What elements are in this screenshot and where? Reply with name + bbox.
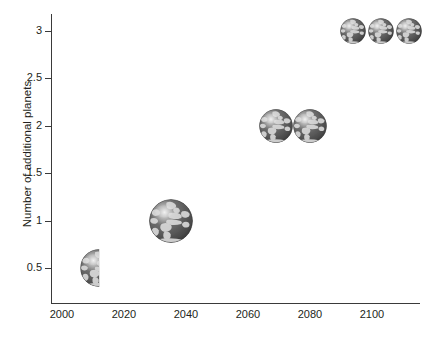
x-tick-label: 2040 [164,309,208,320]
y-tick-label: 0.5 [8,262,42,273]
y-tick-mark [45,126,51,127]
y-tick-label: 2 [8,120,42,131]
y-tick-label: 1 [8,215,42,226]
earth-globe-icon [293,109,327,143]
x-tick-label: 2060 [226,309,270,320]
earth-globe-icon [396,18,422,44]
chart-canvas: Number of additional planets 32.521.510.… [0,0,434,338]
x-tick-label: 2080 [288,309,332,320]
x-tick-label: 2000 [40,309,84,320]
half-earth-globe-icon [80,249,118,287]
y-tick-label: 3 [8,25,42,36]
earth-globe-icon [149,199,193,243]
y-tick-mark [45,221,51,222]
y-tick-label: 2.5 [8,72,42,83]
y-tick-mark [45,31,51,32]
x-tick-label: 2020 [102,309,146,320]
x-axis-line [51,303,420,304]
earth-globe-icon [368,18,394,44]
earth-globe-icon [340,18,366,44]
y-tick-mark [45,268,51,269]
earth-globe-icon [259,109,293,143]
y-axis-line [51,14,52,304]
x-tick-label: 2100 [350,309,394,320]
y-tick-label: 1.5 [8,167,42,178]
y-tick-mark [45,78,51,79]
y-tick-mark [45,173,51,174]
